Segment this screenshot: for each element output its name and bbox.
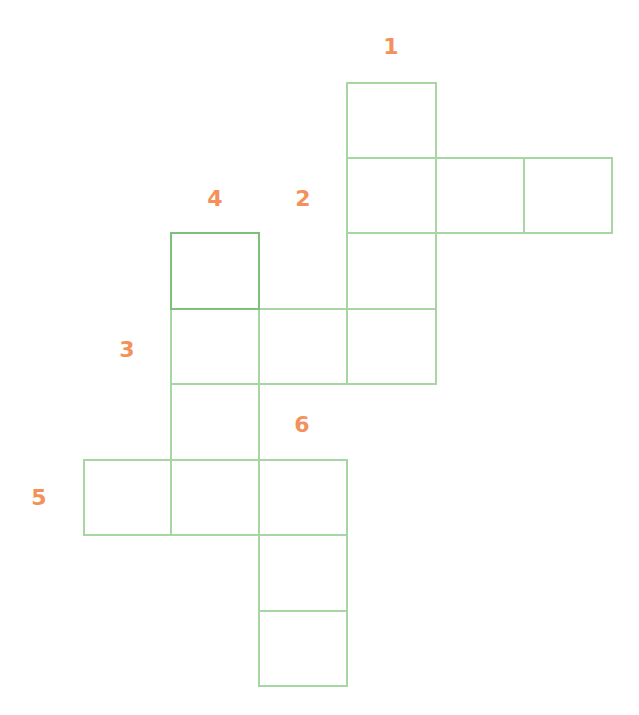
grid-cell[interactable]	[170, 383, 260, 461]
grid-cell[interactable]	[170, 459, 260, 536]
clue-number-2: 2	[295, 188, 310, 210]
grid-cell[interactable]	[258, 459, 348, 536]
grid-cell[interactable]	[523, 157, 613, 234]
grid-cell[interactable]	[258, 534, 348, 612]
grid-cell[interactable]	[258, 610, 348, 687]
clue-number-6: 6	[294, 414, 309, 436]
clue-number-5: 5	[31, 487, 46, 509]
clue-number-4: 4	[207, 188, 222, 210]
grid-cell[interactable]	[346, 157, 437, 234]
grid-cell[interactable]	[258, 308, 348, 385]
clue-number-1: 1	[383, 36, 398, 58]
grid-cell[interactable]	[83, 459, 172, 536]
grid-cell[interactable]	[346, 232, 437, 310]
grid-cell[interactable]	[435, 157, 525, 234]
grid-cell[interactable]	[346, 82, 437, 159]
crossword-board: 1 2 3 4 5 6	[0, 0, 639, 715]
grid-cell[interactable]	[170, 308, 260, 385]
grid-cell[interactable]	[170, 232, 260, 310]
clue-number-3: 3	[119, 339, 134, 361]
grid-cell[interactable]	[346, 308, 437, 385]
